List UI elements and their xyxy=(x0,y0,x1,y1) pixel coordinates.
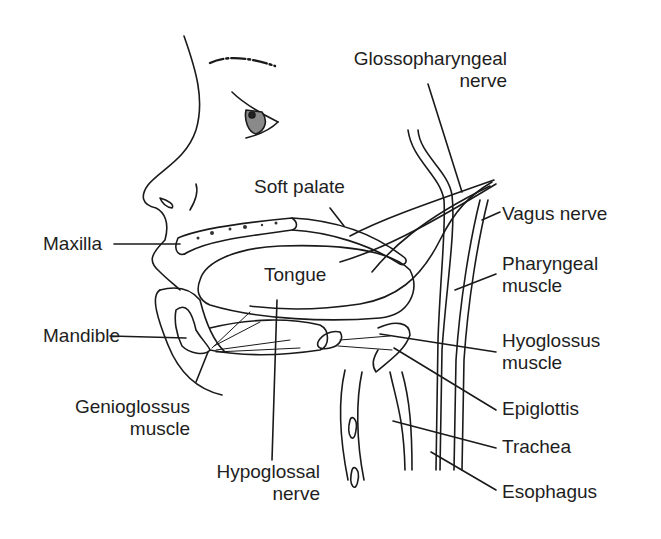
label-text: Genioglossus xyxy=(40,396,190,418)
eye-icon xyxy=(232,92,278,138)
label-mandible: Mandible xyxy=(43,325,120,347)
anatomy-diagram: Glossopharyngeal nerve Soft palate Vagus… xyxy=(0,0,661,539)
label-esophagus: Esophagus xyxy=(502,481,597,503)
label-text: Hyoglossus xyxy=(502,330,600,352)
label-text: Hypoglossal xyxy=(180,461,320,483)
nostril xyxy=(160,198,173,208)
epiglottis xyxy=(373,323,410,372)
label-vagus-nerve: Vagus nerve xyxy=(502,203,607,225)
label-epiglottis: Epiglottis xyxy=(502,398,579,420)
pharynx-wall xyxy=(408,130,444,470)
label-text: nerve xyxy=(300,70,507,92)
label-text: Glossopharyngeal xyxy=(300,48,507,70)
label-text: muscle xyxy=(502,275,598,297)
face-profile xyxy=(143,36,199,290)
label-hypoglossal-nerve: Hypoglossal nerve xyxy=(180,461,320,505)
leader-mandible xyxy=(110,336,186,338)
label-genioglossus-muscle: Genioglossus muscle xyxy=(40,396,190,440)
leader-pharyngeal xyxy=(455,274,496,290)
trachea xyxy=(341,370,412,480)
label-tongue: Tongue xyxy=(264,264,326,286)
label-pharyngeal-muscle: Pharyngeal muscle xyxy=(502,253,598,297)
eyebrow-icon xyxy=(210,58,275,66)
label-maxilla: Maxilla xyxy=(43,233,102,255)
label-text: nerve xyxy=(180,483,320,505)
label-glossopharyngeal-nerve: Glossopharyngeal nerve xyxy=(300,48,507,92)
label-hyoglossus-muscle: Hyoglossus muscle xyxy=(502,330,600,374)
label-text: Pharyngeal xyxy=(502,253,598,275)
leader-trachea xyxy=(393,421,496,448)
maxilla xyxy=(176,218,297,254)
label-soft-palate: Soft palate xyxy=(254,176,345,198)
label-trachea: Trachea xyxy=(502,436,571,458)
label-text: muscle xyxy=(502,352,600,374)
label-text: muscle xyxy=(40,418,190,440)
leader-esophagus xyxy=(431,452,496,490)
leader-epiglottis xyxy=(394,348,496,410)
hypoglossal-nerve-line xyxy=(272,300,277,460)
